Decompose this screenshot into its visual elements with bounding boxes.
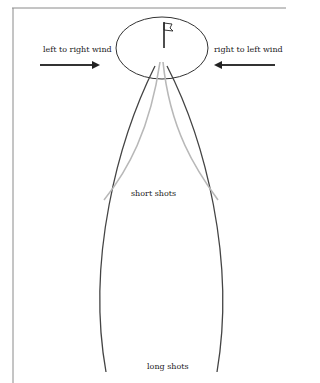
short-shot-path-right (163, 62, 218, 200)
right-arrow-icon (40, 61, 100, 69)
long-shot-path-right (167, 66, 223, 372)
long-shots-label: long shots (147, 363, 189, 371)
flag-icon (164, 22, 173, 48)
short-shot-path-left (104, 62, 160, 200)
left-arrow-icon (214, 61, 275, 69)
short-shots-label: short shots (131, 190, 176, 198)
right-to-left-wind-label: right to left wind (214, 46, 283, 54)
long-shot-path-left (100, 66, 155, 372)
left-to-right-wind-label: left to right wind (43, 46, 112, 54)
green-ellipse (116, 17, 208, 79)
